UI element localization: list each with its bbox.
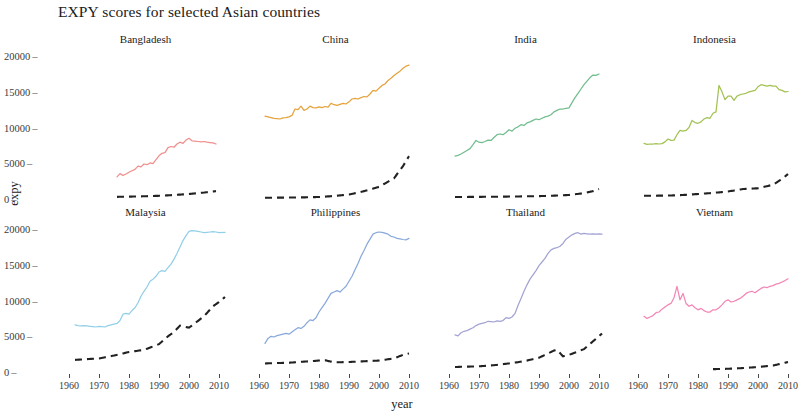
x-tick-label: 2000	[369, 380, 389, 391]
x-tick-mark	[758, 374, 759, 378]
x-tick-mark	[189, 374, 190, 378]
y-tick-label: 10000–	[4, 295, 56, 306]
panel-indonesia	[632, 49, 797, 199]
expy-line	[644, 279, 788, 319]
panel-bangladesh	[63, 49, 228, 199]
x-tick-label: 1980	[499, 380, 519, 391]
x-tick-mark	[728, 374, 729, 378]
gdp-dashed-line	[75, 297, 225, 360]
x-tick-mark	[319, 374, 320, 378]
x-tick-label: 1960	[249, 380, 269, 391]
x-tick-mark	[599, 374, 600, 378]
x-tick-mark	[129, 374, 130, 378]
x-tick-label: 1990	[529, 380, 549, 391]
x-tick-mark	[668, 374, 669, 378]
x-tick-label: 1960	[59, 380, 79, 391]
x-tick-mark	[788, 374, 789, 378]
gdp-dashed-line	[713, 362, 788, 369]
gdp-dashed-line	[455, 333, 602, 367]
x-tick-mark	[259, 374, 260, 378]
expy-line	[265, 65, 409, 119]
panel-india	[443, 49, 608, 199]
x-tick-label: 1970	[658, 380, 678, 391]
x-tick-label: 2010	[778, 380, 798, 391]
gdp-dashed-line	[117, 191, 216, 197]
x-tick-mark	[509, 374, 510, 378]
panel-vietnam	[632, 222, 797, 372]
y-tick-label: 15000–	[4, 86, 56, 97]
y-tick-label: 0–	[4, 194, 56, 205]
x-tick-label: 1990	[149, 380, 169, 391]
expy-line	[265, 232, 409, 343]
x-tick-label: 1960	[628, 380, 648, 391]
panel-malaysia	[63, 222, 228, 372]
chart-title: EXPY scores for selected Asian countries	[58, 3, 320, 21]
x-tick-mark	[638, 374, 639, 378]
panel-thailand	[443, 222, 608, 372]
gdp-dashed-line	[455, 189, 599, 197]
x-tick-label: 2000	[559, 380, 579, 391]
y-tick-label: 5000–	[4, 158, 56, 169]
x-tick-mark	[99, 374, 100, 378]
panel-title-thailand: Thailand	[506, 206, 545, 218]
x-tick-mark	[479, 374, 480, 378]
x-tick-label: 1980	[688, 380, 708, 391]
panel-title-bangladesh: Bangladesh	[120, 33, 171, 45]
expy-line	[455, 233, 602, 336]
expy-line	[75, 231, 225, 327]
expy-line	[117, 138, 216, 177]
y-tick-label: 20000–	[4, 224, 56, 235]
panel-title-philippines: Philippines	[311, 206, 361, 218]
y-tick-label: 0–	[4, 367, 56, 378]
y-tick-label: 15000–	[4, 259, 56, 270]
expy-line	[644, 85, 788, 145]
panel-title-indonesia: Indonesia	[693, 33, 736, 45]
y-tick-label: 10000–	[4, 122, 56, 133]
panel-title-vietnam: Vietnam	[696, 206, 733, 218]
y-tick-label: 5000–	[4, 331, 56, 342]
x-tick-mark	[69, 374, 70, 378]
x-tick-label: 2000	[748, 380, 768, 391]
panel-title-malaysia: Malaysia	[125, 206, 165, 218]
x-tick-mark	[349, 374, 350, 378]
x-tick-mark	[289, 374, 290, 378]
panel-philippines	[253, 222, 418, 372]
gdp-dashed-line	[644, 174, 788, 196]
chart-root: EXPY scores for selected Asian countries…	[0, 0, 804, 413]
x-tick-mark	[219, 374, 220, 378]
panel-title-india: India	[514, 33, 537, 45]
x-tick-label: 2000	[179, 380, 199, 391]
x-tick-mark	[698, 374, 699, 378]
x-tick-label: 2010	[589, 380, 609, 391]
panel-title-china: China	[322, 33, 348, 45]
x-tick-mark	[409, 374, 410, 378]
panel-china	[253, 49, 418, 199]
x-tick-label: 1980	[309, 380, 329, 391]
x-tick-label: 1970	[469, 380, 489, 391]
x-tick-mark	[569, 374, 570, 378]
x-axis-title: year	[0, 397, 804, 412]
x-tick-label: 1990	[718, 380, 738, 391]
x-tick-label: 1990	[339, 380, 359, 391]
y-tick-label: 20000–	[4, 51, 56, 62]
x-tick-label: 1980	[119, 380, 139, 391]
x-tick-label: 2010	[209, 380, 229, 391]
x-tick-mark	[159, 374, 160, 378]
x-tick-label: 1960	[439, 380, 459, 391]
gdp-dashed-line	[265, 353, 409, 363]
x-tick-label: 2010	[399, 380, 419, 391]
x-tick-mark	[539, 374, 540, 378]
x-tick-label: 1970	[279, 380, 299, 391]
gdp-dashed-line	[265, 156, 409, 198]
expy-line	[455, 74, 599, 156]
x-tick-mark	[379, 374, 380, 378]
x-tick-label: 1970	[89, 380, 109, 391]
x-tick-mark	[449, 374, 450, 378]
